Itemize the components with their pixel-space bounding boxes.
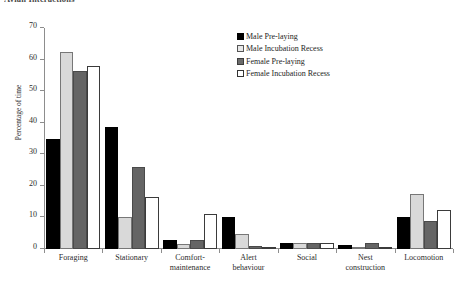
bar[interactable]	[365, 243, 379, 249]
legend-item[interactable]: Male Pre-laying	[237, 30, 330, 43]
bar[interactable]	[222, 217, 236, 249]
bar[interactable]	[190, 240, 204, 249]
y-tick: 60	[40, 59, 44, 60]
bar-group	[46, 28, 100, 249]
y-tick-mark	[40, 59, 44, 60]
y-tick-label: 70	[29, 21, 37, 30]
bar-group	[105, 28, 159, 249]
legend-swatch-icon	[237, 58, 244, 65]
y-tick: 20	[40, 185, 44, 186]
y-tick-mark	[40, 90, 44, 91]
bar[interactable]	[60, 52, 74, 249]
chart-legend: Male Pre-layingMale Incubation RecessFem…	[237, 30, 330, 80]
y-tick-label: 0	[33, 242, 37, 251]
bar[interactable]	[379, 247, 393, 249]
legend-item[interactable]: Male Incubation Recess	[237, 43, 330, 56]
y-tick-mark	[40, 216, 44, 217]
category-label-line: construction	[320, 263, 410, 273]
bar[interactable]	[204, 214, 218, 249]
y-tick-mark	[40, 185, 44, 186]
bar[interactable]	[397, 217, 411, 249]
legend-swatch-icon	[237, 33, 244, 40]
y-tick-label: 10	[29, 210, 37, 219]
bar[interactable]	[235, 234, 249, 249]
bar[interactable]	[105, 127, 119, 249]
y-axis-line	[44, 28, 45, 249]
y-tick-label: 30	[29, 147, 37, 156]
legend-item[interactable]: Female Incubation Recess	[237, 68, 330, 81]
y-tick-label: 60	[29, 53, 37, 62]
y-tick-mark	[40, 122, 44, 123]
y-tick: 50	[40, 90, 44, 91]
bar[interactable]	[352, 247, 366, 249]
bar[interactable]	[73, 71, 87, 249]
y-tick-label: 20	[29, 179, 37, 188]
bar[interactable]	[177, 244, 191, 249]
y-tick-label: 50	[29, 84, 37, 93]
bar[interactable]	[338, 245, 352, 249]
bar-chart-figure: Avian Interactions Percentage of time 01…	[0, 0, 461, 288]
bar[interactable]	[46, 139, 60, 250]
legend-swatch-icon	[237, 45, 244, 52]
bar[interactable]	[163, 240, 177, 249]
bar[interactable]	[118, 217, 132, 249]
y-tick: 40	[40, 122, 44, 123]
bar[interactable]	[249, 246, 263, 249]
y-tick-mark	[40, 153, 44, 154]
bar[interactable]	[424, 221, 438, 249]
y-tick: 30	[40, 153, 44, 154]
legend-item[interactable]: Female Pre-laying	[237, 55, 330, 68]
y-tick: 70	[40, 27, 44, 28]
bar[interactable]	[437, 210, 451, 249]
y-tick-mark	[40, 27, 44, 28]
category-label-line: behaviour	[204, 263, 294, 273]
y-tick: 10	[40, 216, 44, 217]
legend-label: Male Incubation Recess	[246, 44, 323, 53]
legend-label: Male Pre-laying	[246, 32, 298, 41]
bar[interactable]	[145, 197, 159, 249]
x-axis-category-label: Locomotion	[379, 253, 461, 263]
category-label-line: Locomotion	[379, 253, 461, 263]
y-tick-label: 40	[29, 116, 37, 125]
bar-group	[397, 28, 451, 249]
bar[interactable]	[410, 194, 424, 249]
bar-group	[338, 28, 392, 249]
bar[interactable]	[320, 243, 334, 249]
bar[interactable]	[293, 243, 307, 249]
bar-group	[163, 28, 217, 249]
legend-swatch-icon	[237, 70, 244, 77]
legend-label: Female Incubation Recess	[246, 69, 330, 78]
y-axis-title: Percentage of time	[14, 43, 23, 183]
caption-fragment: Avian Interactions	[4, 0, 75, 3]
bar[interactable]	[280, 243, 294, 249]
bar[interactable]	[132, 167, 146, 249]
bar[interactable]	[87, 66, 101, 249]
bar[interactable]	[307, 243, 321, 249]
bar[interactable]	[262, 247, 276, 249]
legend-label: Female Pre-laying	[246, 57, 305, 66]
